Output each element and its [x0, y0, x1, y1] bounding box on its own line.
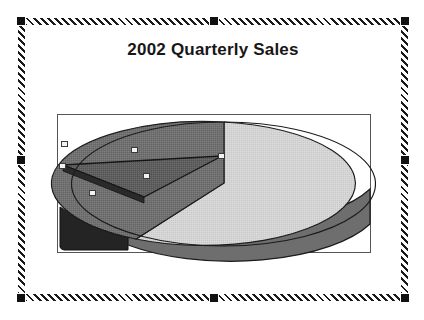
pie-chart-3d[interactable]: [54, 111, 376, 258]
slice-handle-apex[interactable]: [61, 141, 68, 147]
slice-handle-upper-edge[interactable]: [131, 147, 138, 153]
resize-handle-top-left[interactable]: [17, 17, 25, 25]
resize-handle-top-center[interactable]: [210, 17, 218, 25]
slice-handle-lower-edge[interactable]: [143, 173, 150, 179]
slice-handle-outer-right[interactable]: [218, 153, 225, 159]
resize-handle-middle-right[interactable]: [401, 156, 409, 164]
resize-handle-bottom-left[interactable]: [17, 294, 25, 302]
resize-handle-top-right[interactable]: [401, 17, 409, 25]
resize-handle-bottom-right[interactable]: [401, 294, 409, 302]
plot-frame[interactable]: [57, 114, 371, 253]
slice-handle-lower-left[interactable]: [89, 190, 96, 196]
chart-title[interactable]: 2002 Quarterly Sales: [18, 40, 408, 60]
resize-handle-bottom-center[interactable]: [210, 294, 218, 302]
slice-handle-upper-left[interactable]: [59, 163, 66, 169]
resize-handle-middle-left[interactable]: [17, 156, 25, 164]
